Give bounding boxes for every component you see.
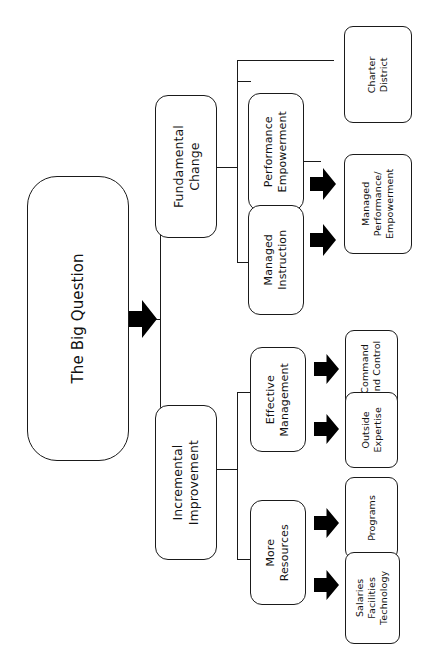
connector-incremental-improvement-stem: [216, 469, 238, 470]
connector-to-performance-empowerment: [237, 81, 251, 82]
node-more-resources[interactable]: More Resources: [250, 500, 306, 605]
node-charter-district[interactable]: Charter District: [344, 26, 412, 123]
arrow-managed-instruction-to-managed-performance: [310, 224, 336, 256]
diagram-canvas: The Big Question Fundamental Change Incr…: [0, 0, 426, 663]
arrow-performance-empowerment-to-managed-performance: [310, 168, 336, 200]
connector-upper-distributor-vertical: [237, 81, 238, 263]
node-label-command-and-control: Command and Control: [360, 341, 384, 397]
node-fundamental-change[interactable]: Fundamental Change: [155, 95, 217, 238]
node-label-outside-expertise: Outside Expertise: [360, 407, 384, 452]
connector-to-effective-management: [237, 392, 251, 393]
connector-performance-empowerment-stem: [304, 161, 321, 162]
arrow-effective-management-to-outside-expertise: [314, 414, 339, 444]
node-label-salaries-facilities-technology: Salaries Facilities Technology: [355, 571, 391, 625]
connector-charter-horizontal: [237, 60, 334, 61]
node-label-incremental-improvement: Incremental Improvement: [170, 440, 201, 525]
node-label-managed-instruction: Managed Instruction: [262, 230, 290, 290]
node-label-managed-performance-empowerment: Managed Performance/ Empowerment: [360, 169, 396, 239]
connector-charter-vert: [237, 60, 238, 82]
node-incremental-improvement[interactable]: Incremental Improvement: [155, 405, 217, 560]
node-the-big-question[interactable]: The Big Question: [27, 176, 129, 461]
node-salaries-facilities-technology[interactable]: Salaries Facilities Technology: [345, 552, 400, 644]
node-label-fundamental-change: Fundamental Change: [170, 125, 201, 208]
connector-lower-distributor-vertical: [237, 392, 238, 560]
connector-to-more-resources: [237, 559, 251, 560]
node-managed-instruction[interactable]: Managed Instruction: [248, 205, 304, 315]
node-outside-expertise[interactable]: Outside Expertise: [345, 392, 398, 468]
arrow-more-resources-to-programs: [314, 508, 339, 538]
connector-fundamental-change-stem: [216, 167, 238, 168]
node-performance-empowerment[interactable]: Performance Empowerment: [248, 93, 304, 211]
node-label-effective-management: Effective Management: [264, 363, 292, 436]
node-label-more-resources: More Resources: [264, 524, 292, 581]
node-label-programs: Programs: [366, 495, 378, 541]
arrow-effective-management-to-command-and-control: [314, 354, 339, 384]
arrow-root-to-branches: [127, 300, 157, 338]
node-label-performance-empowerment: Performance Empowerment: [262, 111, 290, 192]
arrow-more-resources-to-salaries-facilities-technology: [314, 570, 339, 600]
node-managed-performance-empowerment[interactable]: Managed Performance/ Empowerment: [344, 154, 412, 254]
node-label-the-big-question: The Big Question: [69, 253, 88, 383]
node-effective-management[interactable]: Effective Management: [250, 347, 306, 452]
node-label-charter-district: Charter District: [366, 56, 390, 93]
node-programs[interactable]: Programs: [345, 477, 398, 559]
